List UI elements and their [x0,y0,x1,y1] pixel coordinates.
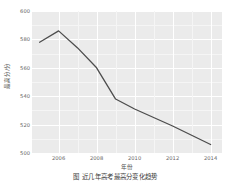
plot-panel [32,11,222,153]
figure-caption: 图 近几年高考最高分变化趋势 [0,172,231,181]
y-axis-title-text: 最高分/分 [3,63,11,90]
y-axis-tick-labels: 500520540560580600 [13,8,31,154]
y-axis-tick-label: 560 [20,65,30,71]
y-axis-tick-label: 500 [20,150,30,156]
y-axis-tick-label: 600 [20,8,30,14]
y-axis-tick-label: 520 [20,122,30,128]
x-axis-tick-label: 2014 [204,155,217,161]
y-axis-tick-label: 540 [20,93,30,99]
chart-figure: 最高分/分 500520540560580600 200620082010201… [0,0,231,181]
x-axis-tick-label: 2006 [52,155,65,161]
x-axis-title: 年份 [32,163,222,171]
series-line-最高分 [32,11,222,153]
x-axis-tick-label: 2012 [166,155,179,161]
x-axis-tick-label: 2010 [128,155,141,161]
y-axis-title: 最高分/分 [0,0,14,152]
x-axis-tick-label: 2008 [90,155,103,161]
y-axis-tick-label: 580 [20,36,30,42]
